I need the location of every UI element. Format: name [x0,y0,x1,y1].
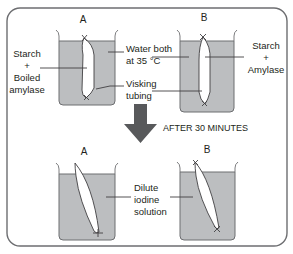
down-arrow-icon [124,104,157,143]
beaker-a-after-label: A [81,146,88,157]
a-contents-line4: amylase [9,84,44,95]
visking-line2: tubing [126,90,152,101]
iodine-line3: solution [134,206,167,217]
beaker-b-lip-left [177,30,180,41]
beaker-a-before: A [56,14,118,105]
b-contents-line1: Starch [252,40,279,51]
iodine-line2: iodine [134,194,159,205]
beaker-b-lip-right [234,30,237,41]
beaker-b-after-lip-left [177,162,180,172]
visking-tube-b [199,37,210,104]
beaker-a-after: A [56,146,118,240]
beaker-a-after-lip-right [115,163,118,174]
iodine-line1: Dilute [134,182,158,193]
b-contents-line2: + [263,52,269,63]
a-contents-line1: Starch [13,48,40,59]
beaker-a-lip-right [115,30,118,41]
a-contents-line3: Boiled [14,72,40,83]
beaker-b-after-label: B [204,144,211,155]
visking-line1: Visking [126,78,156,89]
beaker-a-after-lip-left [56,163,59,174]
b-contents-line3: Amylase [248,64,284,75]
label-water: Water both at 35 °C [108,43,189,66]
beaker-b-before: B [177,12,237,112]
beaker-b-label: B [201,12,208,23]
beaker-b-after-lip-right [235,162,238,172]
water-line1: Water both [126,43,172,54]
a-contents-line2: + [24,60,30,71]
after-30-minutes-caption: AFTER 30 MINUTES [163,123,248,133]
beaker-a-label: A [80,14,87,25]
beaker-b-after: B [177,144,238,240]
beaker-a-lip-left [56,30,59,41]
experiment-diagram: A B Starch + Boiled amylase Water both a… [0,0,293,254]
